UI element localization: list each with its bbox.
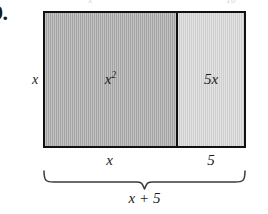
region-five-x-label: 5x <box>204 71 218 88</box>
page-bleed-left-fragment: x <box>88 0 92 2</box>
underbrace-icon <box>41 170 248 192</box>
segment-label-left: x <box>43 152 176 169</box>
rectangle-height-label: x <box>32 72 38 88</box>
underbrace <box>41 170 248 192</box>
region-x-squared-base: x <box>105 71 112 87</box>
region-five-x: 5x <box>178 13 244 146</box>
area-rectangle: x2 5x <box>43 11 246 148</box>
total-width-label: x + 5 <box>41 190 248 207</box>
region-x-squared-exponent: 2 <box>112 70 117 80</box>
figure-root: x 10 9. x2 5x x x 5 x + 5 <box>0 0 268 214</box>
region-x-squared: x2 <box>45 13 178 146</box>
region-five-x-base: 5x <box>204 71 218 87</box>
region-x-squared-label: x2 <box>105 71 116 88</box>
page-bleed-right-fragment: 10 <box>226 0 236 2</box>
segment-label-right: 5 <box>176 152 246 169</box>
problem-number: 9. <box>0 2 8 24</box>
